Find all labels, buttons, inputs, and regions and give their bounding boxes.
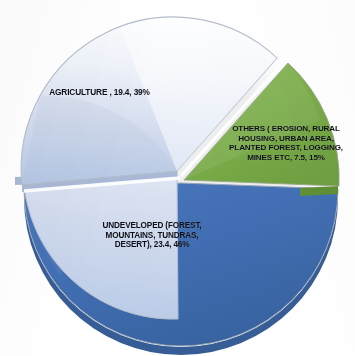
pie-chart: AGRICULTURE , 19.4, 39% OTHERS ( EROSION…: [0, 0, 355, 356]
pie-chart-canvas: [0, 0, 355, 356]
